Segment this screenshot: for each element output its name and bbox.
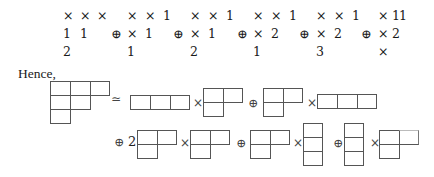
oplus-symbol: ⊕ bbox=[237, 27, 247, 41]
tableau-cell: × bbox=[127, 27, 137, 41]
tableau-cell: × bbox=[316, 9, 326, 23]
tableau-cell: 3 bbox=[316, 45, 324, 59]
oplus-symbol: ⊕ bbox=[361, 27, 371, 41]
times-symbol: × bbox=[193, 96, 203, 110]
tableau-cell: 1 bbox=[399, 9, 407, 23]
oplus-symbol: ⊕ bbox=[299, 27, 309, 41]
times-symbol: × bbox=[293, 136, 303, 150]
tableau-cell: × bbox=[271, 9, 281, 23]
tableau-cell: 1 bbox=[253, 45, 261, 59]
tableau-cell: 1 bbox=[80, 27, 88, 41]
coefficient-2: 2 bbox=[128, 134, 136, 149]
tableau-cell: × bbox=[253, 27, 263, 41]
times-symbol: × bbox=[307, 96, 317, 110]
tableau-cell: 2 bbox=[190, 45, 198, 59]
tableau-cell: 2 bbox=[63, 45, 71, 59]
oplus-symbol: ⊕ bbox=[173, 27, 183, 41]
tableau-cell: × bbox=[378, 27, 388, 41]
tableau-cell: × bbox=[63, 9, 73, 23]
tableau-cell: × bbox=[316, 27, 326, 41]
tableau-cell: × bbox=[378, 9, 388, 23]
tableau-cell: × bbox=[334, 9, 344, 23]
tableau-cell: × bbox=[190, 27, 200, 41]
oplus-symbol: ⊕ bbox=[114, 135, 124, 149]
hence-label: Hence, bbox=[18, 66, 56, 82]
tableau-cell: 2 bbox=[392, 27, 400, 41]
tableau-cell: × bbox=[127, 9, 137, 23]
tableau-cell: × bbox=[97, 9, 107, 23]
simeq-symbol: ≃ bbox=[111, 92, 121, 106]
tableau-cell: 1 bbox=[63, 27, 71, 41]
tableau-cell: 1 bbox=[208, 27, 216, 41]
tableau-cell: 1 bbox=[163, 9, 171, 23]
tableau-cell: × bbox=[208, 9, 218, 23]
oplus-symbol: ⊕ bbox=[333, 136, 343, 150]
tableau-cell: × bbox=[145, 9, 155, 23]
tableau-cell: 1 bbox=[289, 9, 297, 23]
tableau-cell: 2 bbox=[271, 27, 279, 41]
times-symbol: × bbox=[180, 136, 190, 150]
oplus-symbol: ⊕ bbox=[236, 136, 246, 150]
tableau-cell: 1 bbox=[127, 45, 135, 59]
tableau-cell: × bbox=[378, 45, 388, 59]
tableau-cell: 1 bbox=[145, 27, 153, 41]
tableau-cell: 1 bbox=[226, 9, 234, 23]
oplus-symbol: ⊕ bbox=[248, 96, 258, 110]
tableau-cell: × bbox=[190, 9, 200, 23]
tableau-cell: × bbox=[253, 9, 263, 23]
oplus-symbol: ⊕ bbox=[111, 27, 121, 41]
tableau-cell: 1 bbox=[352, 9, 360, 23]
tableau-cell: × bbox=[80, 9, 90, 23]
tableau-cell: 2 bbox=[334, 27, 342, 41]
